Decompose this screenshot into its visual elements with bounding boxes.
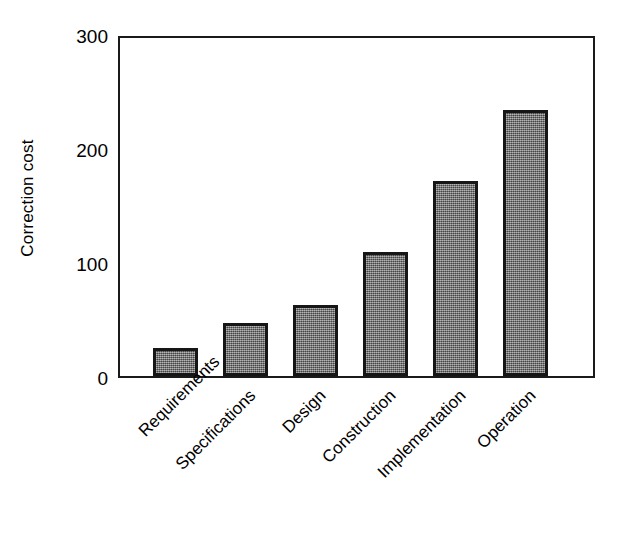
x-tick-label-design-text: Design	[279, 386, 330, 437]
bar-construction	[363, 252, 408, 376]
y-tick-label-200: 200	[48, 141, 108, 160]
bar-chart-figure: Correction cost 0 100 200 300 Requiremen…	[0, 0, 628, 536]
x-tick-label-requirements: Requirements	[135, 386, 189, 440]
bar-design	[293, 305, 338, 376]
y-tick-label-300: 300	[48, 27, 108, 46]
x-tick-label-design: Design	[176, 386, 329, 536]
bar-implementation	[433, 181, 478, 376]
y-tick-label-0: 0	[48, 369, 108, 388]
y-axis-title: Correction cost	[18, 118, 38, 278]
bar-specifications	[223, 323, 268, 376]
bars-layer	[120, 38, 593, 376]
x-tick-label-operation-text: Operation	[473, 386, 539, 452]
y-axis-tick-labels: 0 100 200 300	[42, 36, 108, 378]
y-tick-label-100: 100	[48, 255, 108, 274]
x-axis-tick-labels: Requirements Specifications Design Const…	[118, 378, 595, 536]
bar-operation	[503, 110, 548, 376]
